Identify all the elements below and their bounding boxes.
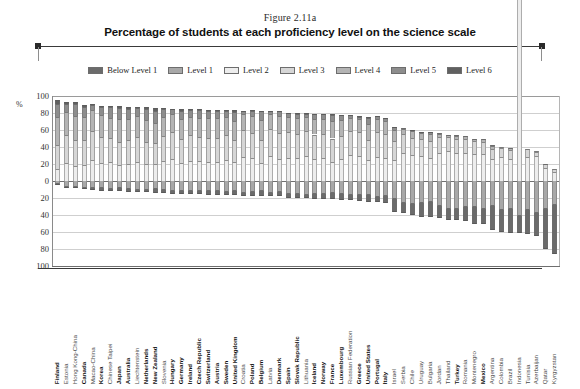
bar-segment — [383, 196, 388, 202]
bar-segment — [454, 181, 459, 209]
bar-segment — [268, 193, 273, 196]
bar-segment — [250, 181, 255, 192]
bar-segment — [153, 111, 158, 123]
bar-segment — [348, 118, 353, 131]
bar-segment — [82, 181, 87, 188]
bar-segment — [286, 117, 291, 132]
bar-segment — [232, 191, 237, 195]
bar-segment — [126, 181, 131, 189]
legend-label: Below Level 1 — [107, 65, 157, 75]
country-label: United States — [365, 344, 371, 384]
bar-segment — [224, 117, 229, 135]
gridline — [52, 266, 560, 267]
legend-item: Level 4 — [336, 65, 381, 75]
bar-segment — [295, 158, 300, 181]
bar-column — [215, 96, 220, 266]
bar-segment — [534, 152, 539, 157]
country-label: Montenegro — [471, 351, 477, 384]
bar-segment — [552, 205, 557, 254]
bar-segment — [277, 159, 282, 181]
bar-column — [99, 96, 104, 266]
country-label: Liechtenstein — [134, 348, 140, 384]
bar-segment — [99, 107, 104, 115]
bar-segment — [428, 181, 433, 202]
bar-segment — [330, 114, 335, 115]
bar-segment — [525, 210, 530, 234]
bar-segment — [286, 181, 291, 194]
bar-segment — [499, 157, 504, 181]
y-axis-tick-label: 80 — [6, 244, 52, 254]
bar-segment — [170, 109, 175, 110]
bar-segment — [463, 153, 468, 181]
country-label: Greece — [356, 363, 362, 384]
bar-segment — [437, 153, 442, 181]
bar-segment — [410, 131, 415, 138]
bar-segment — [73, 187, 78, 188]
bar-segment — [99, 137, 104, 163]
bar-column — [259, 96, 264, 266]
bar-segment — [366, 118, 371, 124]
bar-column — [268, 96, 273, 266]
bar-segment — [375, 132, 380, 156]
bar-segment — [144, 190, 149, 192]
bar-segment — [375, 116, 380, 117]
country-label: Turkey — [453, 364, 459, 384]
bar-segment — [419, 203, 424, 217]
bar-segment — [525, 157, 530, 181]
bar-series-container — [53, 96, 559, 266]
bar-segment — [99, 115, 104, 137]
bar-segment — [259, 111, 264, 112]
bar-segment — [454, 139, 459, 153]
bar-segment — [90, 131, 95, 160]
country-label: Sweden — [223, 361, 229, 384]
bar-segment — [312, 181, 317, 194]
bar-segment — [206, 162, 211, 181]
bar-segment — [543, 209, 548, 249]
bar-column — [277, 96, 282, 266]
bar-column — [108, 96, 113, 266]
bar-segment — [392, 127, 397, 128]
bar-column — [330, 96, 335, 266]
country-label: Romania — [462, 359, 468, 384]
bar-column — [241, 96, 246, 266]
country-label: United Kingdom — [231, 336, 237, 384]
country-label: Ireland — [187, 364, 193, 384]
bar-segment — [543, 181, 548, 209]
bar-segment — [108, 189, 113, 191]
bar-segment — [117, 188, 122, 191]
bar-segment — [295, 114, 300, 119]
bar-segment — [375, 197, 380, 202]
bar-segment — [295, 118, 300, 134]
bar-segment — [366, 195, 371, 201]
bar-segment — [339, 120, 344, 136]
bar-column — [383, 96, 388, 266]
bar-segment — [446, 181, 451, 209]
bar-segment — [286, 194, 291, 198]
legend-item: Level 6 — [447, 65, 492, 75]
country-label: Switzerland — [205, 350, 211, 384]
bar-segment — [534, 181, 539, 213]
bar-segment — [206, 138, 211, 162]
bar-segment — [446, 137, 451, 150]
bar-column — [170, 96, 175, 266]
country-label: Spain — [285, 367, 291, 384]
bar-segment — [90, 188, 95, 189]
y-axis-tick-label: 100 — [6, 91, 52, 101]
bar-segment — [543, 168, 548, 181]
bar-segment — [401, 181, 406, 203]
bar-segment — [312, 135, 317, 159]
legend-item: Level 5 — [391, 65, 436, 75]
bar-segment — [82, 107, 87, 117]
country-label: Mexico — [480, 363, 486, 384]
bar-segment — [64, 163, 69, 181]
bar-segment — [197, 137, 202, 161]
country-label: Czech Republic — [196, 338, 202, 384]
bar-segment — [446, 209, 451, 220]
bar-segment — [534, 156, 539, 181]
bar-segment — [428, 132, 433, 133]
bar-segment — [179, 109, 184, 111]
country-label: Slovenia — [160, 360, 166, 384]
bar-segment — [286, 158, 291, 181]
bar-segment — [357, 116, 362, 117]
country-label: Israel — [391, 369, 397, 384]
